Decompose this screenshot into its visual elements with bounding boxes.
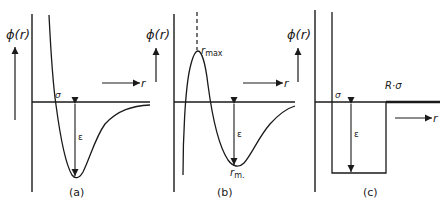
caption-b: (b) [217, 186, 233, 199]
panel-b: ϕ(r) r rmax rm. ε (b) [146, 12, 295, 199]
epsilon-label: ε [237, 129, 242, 139]
potential-curve [183, 51, 295, 175]
potential-diagram: ϕ(r) r σ ε (a) ϕ(r) r rmax rm. ε (b) ϕ(r… [0, 0, 445, 209]
sigma-label: σ [55, 90, 61, 100]
panel-c: ϕ(r) r σ R·σ ε (c) [287, 10, 440, 199]
sigma-label: σ [335, 90, 341, 100]
phi-label: ϕ(r) [6, 27, 30, 42]
r-label: r [284, 77, 290, 90]
potential-curve [49, 15, 150, 178]
phi-label: ϕ(r) [287, 27, 311, 42]
rmax-label: rmax [201, 45, 223, 58]
panel-a: ϕ(r) r σ ε (a) [6, 14, 150, 199]
caption-c: (c) [363, 186, 378, 199]
r-sigma-label: R·σ [385, 80, 402, 91]
rmin-label: rm. [230, 167, 244, 180]
epsilon-label: ε [354, 129, 359, 139]
r-label: r [433, 112, 439, 125]
epsilon-label: ε [78, 132, 83, 142]
r-label: r [141, 77, 147, 90]
phi-label: ϕ(r) [146, 27, 170, 42]
caption-a: (a) [69, 186, 84, 199]
